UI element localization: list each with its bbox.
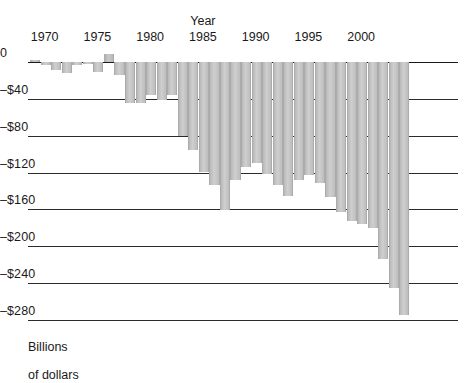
y-axis-title-line1: Billions xyxy=(28,340,79,354)
gridline xyxy=(28,320,458,321)
bar xyxy=(241,62,251,167)
bar xyxy=(304,62,314,175)
bar xyxy=(83,62,93,64)
bar xyxy=(188,62,198,150)
bar xyxy=(178,62,188,136)
bar xyxy=(347,62,357,221)
bar xyxy=(93,62,103,72)
x-tick-label: 1970 xyxy=(31,30,59,44)
y-tick-label: –$200 xyxy=(0,230,35,244)
bar xyxy=(325,62,335,197)
bar xyxy=(378,62,388,259)
bar xyxy=(252,62,262,163)
bar xyxy=(209,62,219,185)
y-tick-label: –$280 xyxy=(0,304,35,318)
plot-area: 0–$40–$80–$120–$160–$200–$240–$280 19701… xyxy=(28,62,458,320)
bar xyxy=(157,62,167,100)
y-axis-title: Billions of dollars xyxy=(28,326,79,383)
bar xyxy=(114,62,124,75)
bar xyxy=(389,62,399,288)
bar xyxy=(41,62,51,65)
bar xyxy=(167,62,177,95)
bar xyxy=(294,62,304,180)
y-axis-title-line2: of dollars xyxy=(28,368,79,382)
bar xyxy=(146,62,156,95)
bar xyxy=(104,54,114,62)
bar xyxy=(136,62,146,103)
x-tick-label: 1995 xyxy=(294,30,322,44)
bar xyxy=(230,62,240,180)
bar xyxy=(357,62,367,224)
x-tick-label: 1985 xyxy=(189,30,217,44)
bar xyxy=(62,62,72,73)
bar xyxy=(336,62,346,212)
y-tick-label: –$240 xyxy=(0,267,35,281)
bar xyxy=(72,62,82,65)
x-axis-title: Year xyxy=(190,14,215,28)
bar xyxy=(220,62,230,210)
y-tick-label: 0 xyxy=(0,46,7,60)
bar xyxy=(283,62,293,196)
bar xyxy=(51,62,61,70)
bar xyxy=(125,62,135,103)
x-tick-label: 1975 xyxy=(83,30,111,44)
x-tick-label: 1980 xyxy=(136,30,164,44)
bar xyxy=(368,62,378,228)
bar xyxy=(30,60,40,62)
y-tick-label: –$80 xyxy=(0,120,28,134)
x-tick-label: 2000 xyxy=(347,30,375,44)
y-tick-label: –$40 xyxy=(0,83,28,97)
y-tick-label: –$160 xyxy=(0,193,35,207)
bar xyxy=(399,62,409,315)
bar xyxy=(199,62,209,172)
y-tick-label: –$120 xyxy=(0,157,35,171)
bar xyxy=(273,62,283,185)
bar xyxy=(315,62,325,183)
x-tick-label: 1990 xyxy=(242,30,270,44)
bar xyxy=(262,62,272,174)
